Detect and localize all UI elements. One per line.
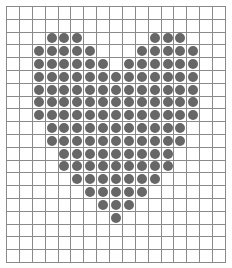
grid-cell[interactable] <box>186 172 199 185</box>
grid-cell[interactable] <box>186 70 199 83</box>
grid-cell[interactable] <box>212 108 225 121</box>
grid-cell[interactable] <box>6 96 19 109</box>
grid-cell[interactable] <box>70 83 83 96</box>
grid-cell[interactable] <box>45 57 58 70</box>
grid-cell[interactable] <box>212 236 225 249</box>
grid-cell[interactable] <box>212 57 225 70</box>
grid-cell[interactable] <box>161 249 174 262</box>
grid-cell[interactable] <box>19 83 32 96</box>
grid-cell[interactable] <box>70 236 83 249</box>
grid-cell[interactable] <box>148 172 161 185</box>
grid-cell[interactable] <box>212 83 225 96</box>
grid-cell[interactable] <box>70 44 83 57</box>
grid-cell[interactable] <box>135 185 148 198</box>
grid-cell[interactable] <box>58 83 71 96</box>
grid-cell[interactable] <box>45 19 58 32</box>
grid-cell[interactable] <box>173 6 186 19</box>
grid-cell[interactable] <box>70 19 83 32</box>
grid-cell[interactable] <box>199 121 212 134</box>
grid-cell[interactable] <box>122 134 135 147</box>
grid-cell[interactable] <box>135 32 148 45</box>
grid-cell[interactable] <box>32 44 45 57</box>
grid-cell[interactable] <box>212 96 225 109</box>
grid-cell[interactable] <box>122 172 135 185</box>
grid-cell[interactable] <box>70 96 83 109</box>
grid-cell[interactable] <box>161 96 174 109</box>
grid-cell[interactable] <box>199 211 212 224</box>
grid-cell[interactable] <box>96 108 109 121</box>
grid-cell[interactable] <box>135 6 148 19</box>
grid-cell[interactable] <box>199 134 212 147</box>
grid-cell[interactable] <box>161 44 174 57</box>
grid-cell[interactable] <box>58 32 71 45</box>
grid-cell[interactable] <box>135 70 148 83</box>
grid-cell[interactable] <box>122 6 135 19</box>
grid-cell[interactable] <box>212 185 225 198</box>
grid-cell[interactable] <box>19 121 32 134</box>
grid-cell[interactable] <box>161 32 174 45</box>
grid-cell[interactable] <box>83 185 96 198</box>
grid-cell[interactable] <box>212 172 225 185</box>
grid-cell[interactable] <box>212 32 225 45</box>
grid-cell[interactable] <box>122 185 135 198</box>
grid-cell[interactable] <box>186 19 199 32</box>
grid-cell[interactable] <box>32 236 45 249</box>
grid-cell[interactable] <box>122 83 135 96</box>
grid-cell[interactable] <box>199 249 212 262</box>
grid-cell[interactable] <box>83 172 96 185</box>
grid-cell[interactable] <box>83 70 96 83</box>
grid-cell[interactable] <box>148 185 161 198</box>
grid-cell[interactable] <box>19 147 32 160</box>
grid-cell[interactable] <box>148 147 161 160</box>
grid-cell[interactable] <box>135 121 148 134</box>
grid-cell[interactable] <box>6 121 19 134</box>
grid-cell[interactable] <box>161 147 174 160</box>
grid-cell[interactable] <box>148 83 161 96</box>
grid-cell[interactable] <box>161 198 174 211</box>
grid-cell[interactable] <box>109 70 122 83</box>
grid-cell[interactable] <box>70 224 83 237</box>
grid-cell[interactable] <box>83 211 96 224</box>
grid-cell[interactable] <box>173 160 186 173</box>
grid-cell[interactable] <box>186 57 199 70</box>
grid-cell[interactable] <box>186 121 199 134</box>
grid-cell[interactable] <box>186 198 199 211</box>
grid-cell[interactable] <box>58 211 71 224</box>
grid-cell[interactable] <box>96 44 109 57</box>
grid-cell[interactable] <box>173 198 186 211</box>
grid-cell[interactable] <box>186 134 199 147</box>
grid-cell[interactable] <box>58 172 71 185</box>
grid-cell[interactable] <box>135 83 148 96</box>
grid-cell[interactable] <box>96 224 109 237</box>
grid-cell[interactable] <box>32 147 45 160</box>
grid-cell[interactable] <box>109 19 122 32</box>
grid-cell[interactable] <box>212 134 225 147</box>
grid-cell[interactable] <box>122 224 135 237</box>
grid-cell[interactable] <box>58 44 71 57</box>
grid-cell[interactable] <box>58 19 71 32</box>
grid-cell[interactable] <box>19 160 32 173</box>
grid-cell[interactable] <box>199 96 212 109</box>
grid-cell[interactable] <box>212 224 225 237</box>
grid-cell[interactable] <box>6 147 19 160</box>
grid-cell[interactable] <box>19 134 32 147</box>
grid-cell[interactable] <box>45 236 58 249</box>
grid-cell[interactable] <box>83 236 96 249</box>
grid-cell[interactable] <box>70 6 83 19</box>
grid-cell[interactable] <box>45 160 58 173</box>
grid-cell[interactable] <box>6 44 19 57</box>
grid-cell[interactable] <box>58 121 71 134</box>
grid-cell[interactable] <box>6 57 19 70</box>
grid-cell[interactable] <box>135 19 148 32</box>
grid-cell[interactable] <box>199 83 212 96</box>
grid-cell[interactable] <box>58 236 71 249</box>
grid-cell[interactable] <box>96 70 109 83</box>
grid-cell[interactable] <box>83 224 96 237</box>
grid-cell[interactable] <box>109 160 122 173</box>
grid-cell[interactable] <box>70 108 83 121</box>
grid-cell[interactable] <box>135 134 148 147</box>
grid-cell[interactable] <box>83 96 96 109</box>
grid-cell[interactable] <box>70 185 83 198</box>
grid-cell[interactable] <box>58 198 71 211</box>
grid-cell[interactable] <box>173 57 186 70</box>
